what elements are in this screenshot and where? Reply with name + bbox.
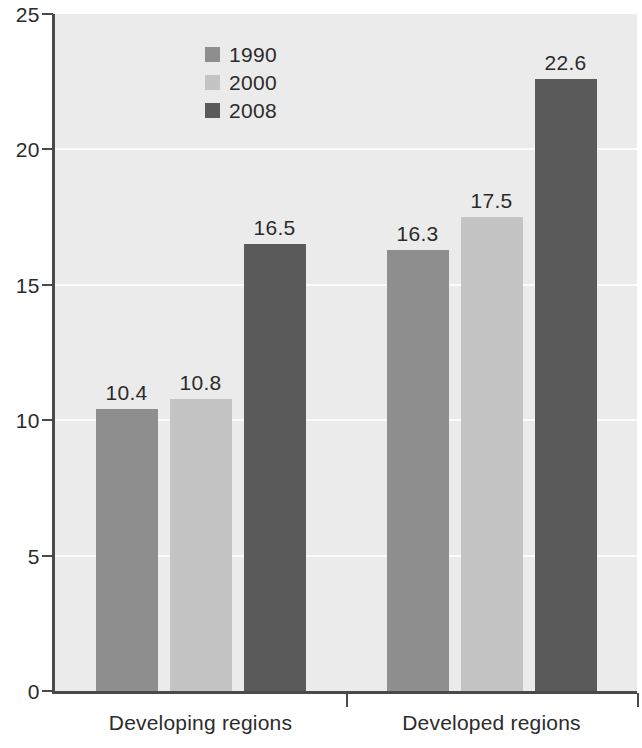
bar[interactable] xyxy=(461,217,523,691)
bar-value-label: 17.5 xyxy=(449,190,535,211)
x-axis-line xyxy=(52,691,637,694)
bar[interactable] xyxy=(535,79,597,691)
bar-value-label: 22.6 xyxy=(523,52,609,73)
bar-value-label: 16.3 xyxy=(375,223,461,244)
legend-swatch-icon xyxy=(205,75,220,90)
legend-item[interactable]: 1990 xyxy=(205,42,335,66)
y-axis-tick-label: 10 xyxy=(6,410,40,431)
category-label: Developed regions xyxy=(342,712,642,733)
x-axis-tick-mark xyxy=(346,693,348,707)
bar[interactable] xyxy=(387,250,449,691)
bar[interactable] xyxy=(96,409,158,691)
legend-item[interactable]: 2008 xyxy=(205,98,335,122)
y-axis-labels: 0510152025 xyxy=(0,0,40,748)
legend-swatch-icon xyxy=(205,103,220,118)
chart-legend: 199020002008 xyxy=(205,42,335,126)
bar[interactable] xyxy=(170,399,232,691)
bar[interactable] xyxy=(244,244,306,691)
y-axis-tick-label: 5 xyxy=(6,545,40,566)
x-axis-tick-mark xyxy=(637,693,639,707)
y-axis-tick-label: 0 xyxy=(6,681,40,702)
y-axis-tick-label: 15 xyxy=(6,274,40,295)
bar-value-label: 10.8 xyxy=(158,372,244,393)
y-axis-tick-label: 25 xyxy=(6,4,40,25)
legend-swatch-icon xyxy=(205,47,220,62)
legend-item[interactable]: 2000 xyxy=(205,70,335,94)
plot-area: 10.410.816.516.317.522.6 199020002008 xyxy=(55,14,637,691)
legend-label: 1990 xyxy=(229,44,277,65)
category-label: Developing regions xyxy=(51,712,351,733)
y-axis-tick-label: 20 xyxy=(6,139,40,160)
legend-label: 2000 xyxy=(229,72,277,93)
legend-label: 2008 xyxy=(229,100,277,121)
bar-value-label: 16.5 xyxy=(232,217,318,238)
